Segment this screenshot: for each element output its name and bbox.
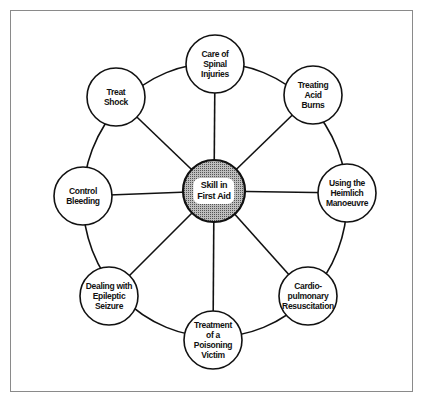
node-label-heimlich: Using the Heimlich Manoeuvre bbox=[326, 178, 368, 208]
node-label-bleeding: Control Bleeding bbox=[66, 186, 100, 206]
node-label-cpr: Cardio- pulmonary Resuscitation bbox=[282, 281, 334, 311]
center-node-label: Skill in First Aid bbox=[193, 178, 234, 204]
node-label-acid: Treating Acid Burns bbox=[298, 80, 329, 110]
node-label-shock: Treat Shock bbox=[104, 87, 128, 107]
node-label-poison: Treatment of a Poisoning Victim bbox=[194, 320, 232, 360]
node-label-epileptic: Dealing with Epileptic Seizure bbox=[86, 281, 132, 311]
node-label-spinal: Care of Spinal Injuries bbox=[201, 49, 229, 79]
